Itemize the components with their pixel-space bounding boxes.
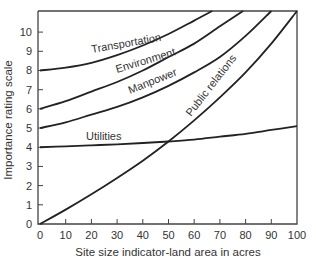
curve-utilities bbox=[40, 126, 297, 147]
y-tick-label: 10 bbox=[20, 26, 32, 38]
y-tick-label: 0 bbox=[26, 218, 32, 230]
label-manpower: Manpower bbox=[126, 65, 178, 95]
x-tick-label: 90 bbox=[265, 229, 277, 241]
x-axis-label: Site size indicator-land area in acres bbox=[75, 246, 261, 258]
x-tick-label: 30 bbox=[111, 229, 123, 241]
label-utilities: Utilities bbox=[86, 130, 122, 142]
y-tick-label: 2 bbox=[26, 180, 32, 192]
x-tick-label: 50 bbox=[162, 229, 174, 241]
x-tick-label: 70 bbox=[214, 229, 226, 241]
y-tick-label: 5 bbox=[26, 122, 32, 134]
y-tick-label: 9 bbox=[26, 45, 32, 57]
x-tick-label: 60 bbox=[188, 229, 200, 241]
x-tick-label: 20 bbox=[85, 229, 97, 241]
axes: 0123456789100102030405060708090100 bbox=[20, 11, 306, 241]
curve-labels: Transportation Environment Manpower Util… bbox=[86, 31, 239, 142]
curve-public-relations bbox=[40, 11, 297, 224]
x-tick-label: 0 bbox=[37, 229, 43, 241]
x-tick-label: 10 bbox=[60, 229, 72, 241]
y-tick-label: 1 bbox=[26, 199, 32, 211]
curve-manpower bbox=[40, 11, 271, 128]
curves bbox=[40, 11, 297, 224]
x-tick-label: 80 bbox=[239, 229, 251, 241]
chart: 0123456789100102030405060708090100 Trans… bbox=[0, 0, 316, 262]
label-public-relations: Public relations bbox=[183, 52, 239, 119]
chart-svg: 0123456789100102030405060708090100 Trans… bbox=[0, 0, 316, 262]
y-tick-label: 8 bbox=[26, 64, 32, 76]
y-tick-label: 7 bbox=[26, 84, 32, 96]
plot-frame bbox=[38, 11, 297, 224]
x-tick-label: 40 bbox=[137, 229, 149, 241]
x-tick-label: 100 bbox=[288, 229, 306, 241]
y-axis-label: Importance rating scale bbox=[2, 60, 14, 180]
y-tick-label: 3 bbox=[26, 160, 32, 172]
y-tick-label: 4 bbox=[26, 141, 32, 153]
y-tick-label: 6 bbox=[26, 103, 32, 115]
